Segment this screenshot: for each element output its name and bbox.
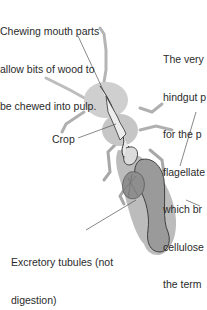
hindgut-line-7: the term — [163, 278, 206, 291]
antenna-right — [100, 28, 106, 88]
tubules-leader-line — [86, 200, 136, 230]
leg — [140, 104, 162, 112]
hindgut-line-1: The very — [163, 53, 206, 66]
mouthparts-label: Chewing mouth parts allow bits of wood t… — [0, 0, 99, 125]
crop-label: Crop — [52, 133, 75, 146]
leg — [104, 142, 118, 180]
mouthparts-line-2: allow bits of wood to — [0, 63, 99, 76]
tubules-label: Excretory tubules (not digestion) — [11, 231, 113, 310]
tubules-line-1: Excretory tubules (not — [11, 256, 113, 269]
hindgut-line-5: which br — [163, 203, 206, 216]
excretory-tubules — [123, 172, 145, 199]
hindgut-line-2: hindgut p — [163, 91, 206, 104]
mouthparts-line-1: Chewing mouth parts — [0, 25, 99, 38]
hindgut-line-4: flagellate — [163, 166, 206, 179]
hindgut-line-6: cellulose — [163, 241, 206, 254]
hindgut-label: The very hindgut p for the p flagellate … — [163, 28, 206, 303]
hindgut-line-3: for the p — [163, 128, 206, 141]
tubules-line-2: digestion) — [11, 294, 113, 307]
mouthparts-line-3: be chewed into pulp. — [0, 100, 99, 113]
